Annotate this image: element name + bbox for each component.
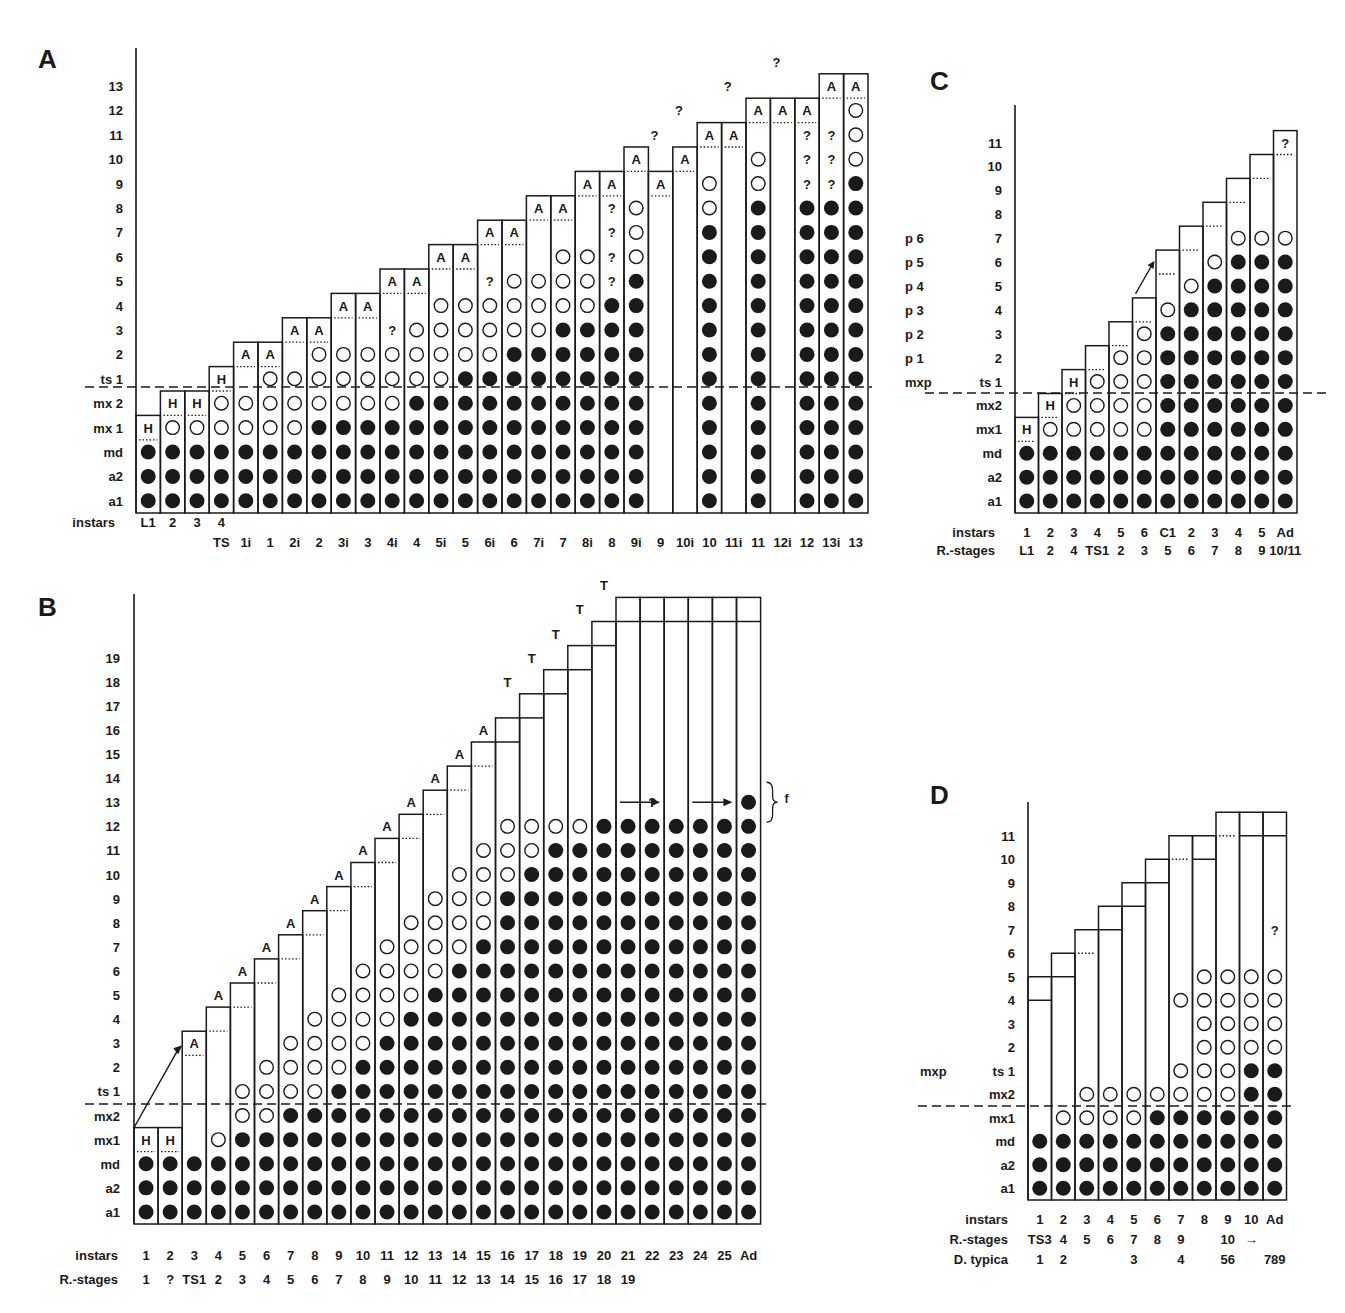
filled-circle-icon [524,1012,539,1027]
filled-circle-icon [596,1156,611,1171]
filled-circle-icon [1267,1087,1282,1102]
filled-circle-icon [693,1060,708,1075]
filled-circle-icon [355,1204,370,1219]
filled-circle-icon [524,1204,539,1219]
open-circle-icon [1244,1017,1258,1031]
open-circle-icon [556,299,570,313]
open-circle-icon [356,1036,370,1050]
filled-circle-icon [669,843,684,858]
filled-circle-icon [1184,302,1199,317]
filled-circle-icon [702,347,717,362]
open-circle-icon [337,348,351,362]
filled-circle-icon [669,988,684,1003]
x-tick-label: 9 [335,1248,342,1263]
open-circle-icon [1197,1017,1211,1031]
filled-circle-icon [1160,446,1175,461]
row-label: 13 [106,795,120,810]
filled-circle-icon [1137,446,1152,461]
stage-letter-T: T [528,651,536,666]
open-circle-icon [236,1109,250,1123]
row-label: 18 [106,675,120,690]
panel-a: A a1a2mdmx 1mx 2ts 12345678910111213HHHH… [0,0,900,560]
x-tick-label: 1 [1023,525,1030,540]
row-label: a1 [109,494,123,509]
filled-circle-icon [604,371,619,386]
filled-circle-icon [283,1204,298,1219]
filled-circle-icon [548,1060,563,1075]
stage-letter-T: T [600,580,608,593]
filled-circle-icon [741,1156,756,1171]
filled-circle-icon [1254,470,1269,485]
filled-circle-icon [1113,446,1128,461]
filled-circle-icon [604,396,619,411]
open-circle-icon [501,820,515,834]
filled-circle-icon [452,988,467,1003]
filled-circle-icon [645,867,660,882]
row-label: 11 [109,128,123,143]
row-label: mx1 [989,1111,1015,1126]
open-circle-icon [1080,1087,1094,1101]
filled-circle-icon [751,493,766,508]
x-tick-label: 13 [849,535,863,550]
open-circle-icon [332,1036,346,1050]
open-circle-icon [525,820,539,834]
x-tick-label: 2 [1117,543,1124,558]
filled-circle-icon [1231,446,1246,461]
filled-circle-icon [548,1108,563,1123]
x-tick-label: 4 [263,1272,271,1287]
filled-circle-icon [1160,422,1175,437]
x-tick-label: 6 [1141,525,1148,540]
filled-circle-icon [531,493,546,508]
x-tick-label: 25 [717,1248,731,1263]
filled-circle-icon [312,469,327,484]
x-tick-label: → [1245,1232,1258,1247]
x-tick-label: 10i [676,535,694,550]
x-tick-label: 21 [621,1248,635,1263]
filled-circle-icon [596,1036,611,1051]
filled-circle-icon [751,445,766,460]
row-label: 8 [1008,899,1015,914]
filled-circle-icon [645,1060,660,1075]
filled-circle-icon [500,939,515,954]
x-tick-label: 1i [240,535,251,550]
filled-circle-icon [1184,350,1199,365]
open-circle-icon [356,964,370,978]
filled-circle-icon [1066,470,1081,485]
filled-circle-icon [717,1156,732,1171]
filled-circle-icon [482,420,497,435]
x-tick-label: 13 [476,1272,490,1287]
filled-circle-icon [524,939,539,954]
x-tick-label: 5 [1164,543,1171,558]
x-tick-label: Ad [1277,525,1294,540]
x-tick-label: 6 [1107,1232,1114,1247]
filled-circle-icon [404,1156,419,1171]
filled-circle-icon [693,819,708,834]
x-tick-label: TS [213,535,230,550]
open-circle-icon [477,916,491,930]
stage-letter-A: A [607,177,617,192]
filled-circle-icon [458,445,473,460]
filled-circle-icon [596,1012,611,1027]
stage-letter-H: H [1022,422,1031,437]
filled-circle-icon [669,1204,684,1219]
filled-circle-icon [1207,446,1222,461]
open-circle-icon [410,372,424,386]
filled-circle-icon [360,469,375,484]
filled-circle-icon [238,445,253,460]
filled-circle-icon [1150,1134,1165,1149]
row-label: mx 1 [93,421,123,436]
x-tick-label: 5i [436,535,447,550]
left-label: p 4 [905,279,925,294]
filled-circle-icon [1231,422,1246,437]
filled-circle-icon [331,1156,346,1171]
filled-circle-icon [645,939,660,954]
open-circle-icon [332,988,346,1002]
filled-circle-icon [1066,446,1081,461]
filled-circle-icon [621,915,636,930]
filled-circle-icon [434,493,449,508]
open-circle-icon [849,152,863,166]
panel-d-letter: D [930,780,949,811]
open-circle-icon [556,250,570,264]
open-circle-icon [380,1012,394,1026]
filled-circle-icon [629,469,644,484]
